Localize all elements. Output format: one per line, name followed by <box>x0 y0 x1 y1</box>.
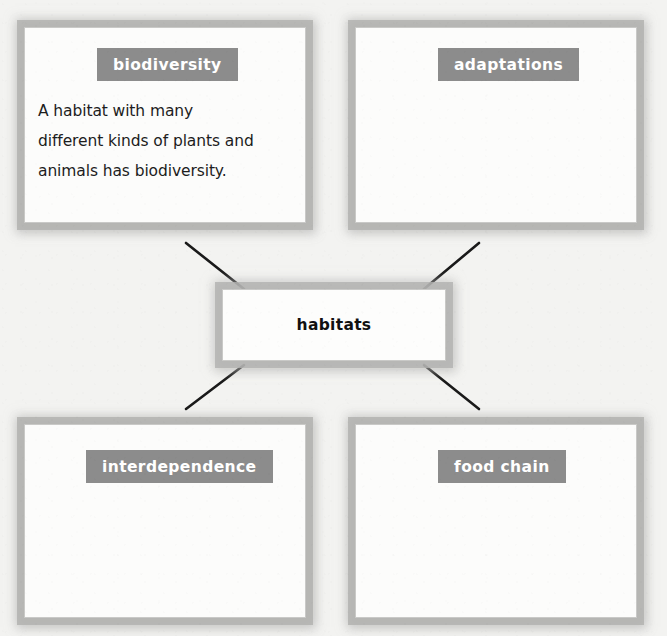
concept-card-interdependence[interactable]: interdependence <box>24 424 306 618</box>
concept-card-adaptations[interactable]: adaptations <box>355 27 637 223</box>
definition-line: A habitat with many <box>38 96 296 126</box>
term-label-adaptations: adaptations <box>438 48 579 81</box>
connector-center-to-adaptations <box>424 243 479 289</box>
center-label-habitats: habitats <box>297 316 372 334</box>
term-label-interdependence: interdependence <box>86 450 273 483</box>
connector-center-to-food-chain <box>424 365 479 409</box>
definition-line: different kinds of plants and <box>38 126 296 156</box>
concept-web-diagram: biodiversity A habitat with many differe… <box>0 0 667 636</box>
concept-card-center-habitats[interactable]: habitats <box>222 289 446 361</box>
connector-center-to-biodiversity <box>186 243 244 289</box>
definition-line: animals has biodiversity. <box>38 156 296 186</box>
concept-card-food-chain[interactable]: food chain <box>355 424 637 618</box>
connector-center-to-interdependence <box>186 365 244 409</box>
concept-card-biodiversity[interactable]: biodiversity A habitat with many differe… <box>24 27 306 223</box>
term-label-biodiversity: biodiversity <box>97 48 238 81</box>
definition-text-biodiversity: A habitat with many different kinds of p… <box>38 96 296 186</box>
term-label-food-chain: food chain <box>438 450 566 483</box>
